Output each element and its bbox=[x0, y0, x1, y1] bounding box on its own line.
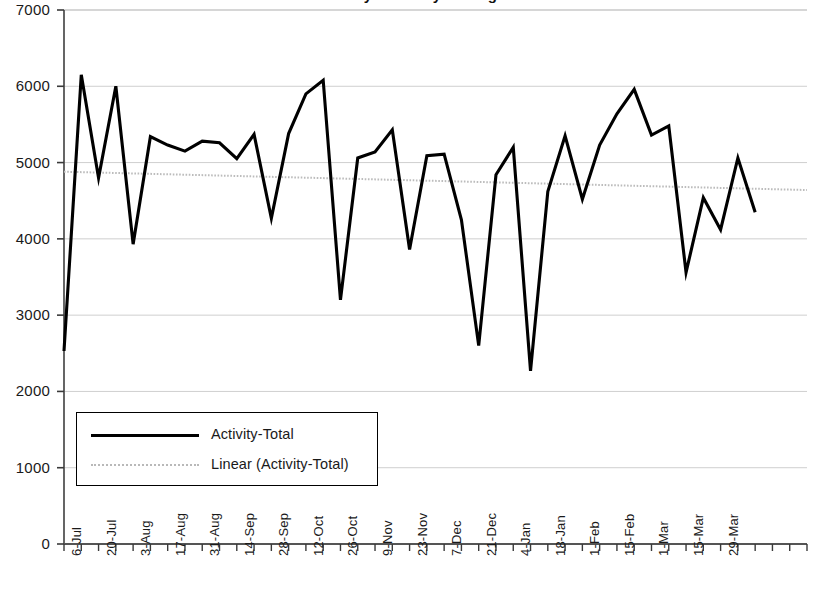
x-tick-label: 14-Sep bbox=[242, 513, 257, 556]
x-tick-label: 1-Feb bbox=[587, 521, 602, 556]
legend-label-linear-trend: Linear (Activity-Total) bbox=[211, 456, 349, 472]
y-tick-label: 4000 bbox=[2, 231, 50, 246]
gridlines bbox=[64, 10, 807, 468]
x-tick-label: 26-Oct bbox=[345, 516, 360, 556]
x-tick-label: 28-Sep bbox=[276, 513, 291, 556]
x-tick-label: 9-Nov bbox=[380, 520, 395, 556]
x-tick-label: 23-Nov bbox=[415, 513, 430, 556]
legend-swatch-solid-line-icon bbox=[91, 428, 199, 440]
chart-root: Activity Totals by Fortnight 01000200030… bbox=[0, 0, 829, 611]
x-tick-label: 6-Jul bbox=[69, 527, 84, 556]
x-tick-label: 15-Feb bbox=[622, 514, 637, 556]
x-tick-label: 20-Jul bbox=[104, 519, 119, 556]
trendline-series bbox=[64, 172, 807, 190]
y-tick-label: 3000 bbox=[2, 307, 50, 322]
x-tick-label: 17-Aug bbox=[173, 513, 188, 556]
legend-item-linear-trend: Linear (Activity-Total) bbox=[77, 449, 377, 479]
x-tick-label: 21-Dec bbox=[484, 513, 499, 556]
y-tick-label: 1000 bbox=[2, 460, 50, 475]
x-tick-label: 29-Mar bbox=[726, 514, 741, 556]
activity-total-series bbox=[64, 75, 755, 371]
x-tick-label: 15-Mar bbox=[691, 514, 706, 556]
x-tick-label: 3-Aug bbox=[138, 520, 153, 556]
y-tick-label: 0 bbox=[2, 536, 50, 551]
y-tick-label: 5000 bbox=[2, 155, 50, 170]
x-tick-label: 31-Aug bbox=[207, 513, 222, 556]
legend-label-activity-total: Activity-Total bbox=[211, 426, 294, 442]
x-tick-label: 4-Jan bbox=[518, 522, 533, 556]
y-tick-label: 6000 bbox=[2, 78, 50, 93]
legend-item-activity-total: Activity-Total bbox=[77, 419, 377, 449]
y-tick-label: 7000 bbox=[2, 2, 50, 17]
x-tick-label: 12-Oct bbox=[311, 516, 326, 556]
y-tick-label: 2000 bbox=[2, 383, 50, 398]
y-axis-ticks bbox=[57, 10, 64, 544]
x-tick-label: 1-Mar bbox=[656, 521, 671, 556]
legend-swatch-dotted-line-icon bbox=[91, 458, 199, 470]
chart-legend: Activity-Total Linear (Activity-Total) bbox=[76, 412, 378, 486]
x-tick-label: 18-Jan bbox=[553, 515, 568, 556]
x-tick-label: 7-Dec bbox=[449, 520, 464, 556]
